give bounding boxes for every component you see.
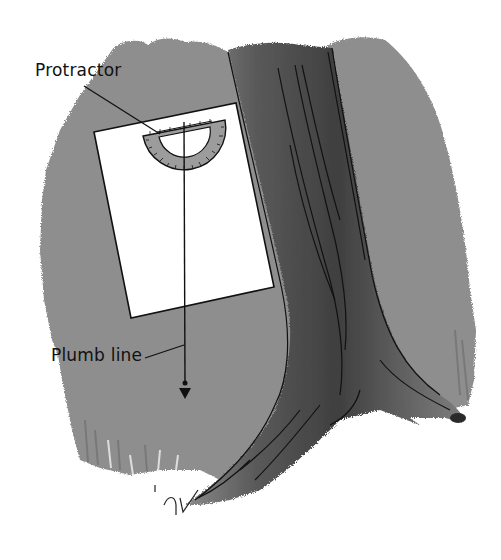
plumb-string <box>184 122 185 382</box>
grass-squiggles <box>155 485 198 515</box>
protractor-label: Protractor <box>35 62 121 79</box>
root-tip <box>450 413 466 423</box>
illustration-canvas <box>0 0 501 560</box>
illustration: Protractor Plumb line <box>0 0 501 560</box>
plumb-line-label: Plumb line <box>51 347 142 364</box>
